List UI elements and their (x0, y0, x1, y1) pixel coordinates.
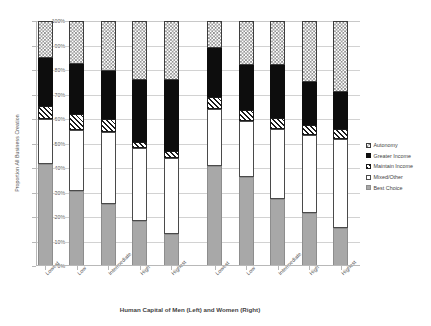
plot-border (36, 21, 360, 266)
legend-label: Best Choice (374, 185, 403, 191)
stacked-bar-chart: Proportion All Business Creation Human C… (0, 0, 431, 326)
x-tick-mark (246, 266, 247, 270)
x-tick-mark (215, 266, 216, 270)
legend-swatch-autonomy (366, 143, 371, 148)
x-tick-mark (309, 266, 310, 270)
legend-item: Mixed/Other (366, 172, 413, 183)
legend-item: Best Choice (366, 182, 413, 193)
x-tick-mark (108, 266, 109, 270)
legend-swatch-mixed-other (366, 175, 371, 180)
x-tick-mark (77, 266, 78, 270)
legend-item: Maintain Income (366, 161, 413, 172)
chart-legend: AutonomyGreater IncomeMaintain IncomeMix… (366, 140, 413, 193)
x-tick-mark (341, 266, 342, 270)
legend-label: Mixed/Other (374, 174, 403, 180)
x-tick-mark (140, 266, 141, 270)
legend-swatch-greater-income (366, 153, 371, 158)
x-tick-mark (278, 266, 279, 270)
legend-item: Autonomy (366, 140, 413, 151)
legend-swatch-maintain-income (366, 164, 371, 169)
legend-label: Autonomy (374, 142, 398, 148)
legend-item: Greater Income (366, 151, 413, 162)
x-tick-mark (45, 266, 46, 270)
x-axis-title: Human Capital of Men (Left) and Women (R… (0, 306, 380, 313)
x-tick-mark (171, 266, 172, 270)
y-axis-title: Proportion All Business Creation (14, 78, 20, 228)
y-tick-mark (32, 266, 36, 267)
legend-label: Greater Income (374, 153, 411, 159)
plot-area (36, 21, 360, 266)
legend-label: Maintain Income (374, 163, 414, 169)
legend-swatch-best-choice (366, 185, 371, 190)
